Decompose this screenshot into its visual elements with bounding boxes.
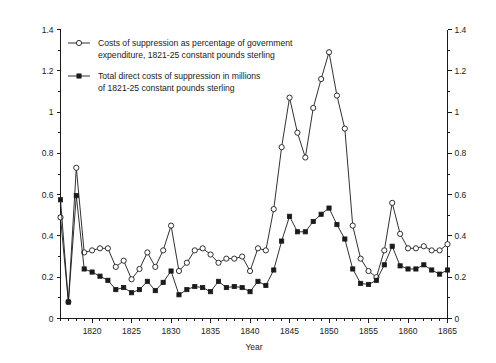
- data-point-open-circle: [247, 268, 252, 273]
- data-point-filled-square: [122, 285, 126, 289]
- legend-marker-filled-square: [77, 74, 81, 78]
- data-point-open-circle: [366, 268, 371, 273]
- data-point-filled-square: [351, 267, 355, 271]
- data-point-filled-square: [438, 272, 442, 276]
- data-point-open-circle: [390, 200, 395, 205]
- y-axis-left-tick-label: 1.2: [42, 66, 54, 76]
- data-point-open-circle: [398, 231, 403, 236]
- data-point-open-circle: [176, 268, 181, 273]
- data-point-filled-square: [153, 289, 157, 293]
- y-axis-right-tick-label: 1: [455, 107, 460, 117]
- data-point-open-circle: [200, 246, 205, 251]
- chart-figure: 000.20.20.40.40.60.60.80.8111.21.21.41.4…: [0, 0, 496, 363]
- data-point-filled-square: [90, 270, 94, 274]
- chart-canvas: 000.20.20.40.40.60.60.80.8111.21.21.41.4…: [0, 0, 496, 363]
- data-point-filled-square: [248, 290, 252, 294]
- data-point-filled-square: [74, 194, 78, 198]
- data-point-filled-square: [327, 206, 331, 210]
- data-point-filled-square: [430, 268, 434, 272]
- legend-label-line2-0: expenditure, 1821-25 constant pounds ste…: [98, 50, 275, 60]
- data-point-filled-square: [287, 214, 291, 218]
- y-axis-left-tick-label: 0.6: [42, 190, 54, 200]
- data-point-open-circle: [240, 254, 245, 259]
- data-point-filled-square: [137, 288, 141, 292]
- data-point-open-circle: [184, 260, 189, 265]
- data-point-filled-square: [208, 290, 212, 294]
- data-point-open-circle: [161, 248, 166, 253]
- data-point-open-circle: [326, 50, 331, 55]
- data-point-open-circle: [145, 250, 150, 255]
- data-point-filled-square: [343, 237, 347, 241]
- data-point-filled-square: [303, 230, 307, 234]
- data-point-filled-square: [280, 239, 284, 243]
- data-point-filled-square: [201, 285, 205, 289]
- data-point-open-circle: [192, 248, 197, 253]
- data-point-open-circle: [334, 93, 339, 98]
- data-point-open-circle: [287, 95, 292, 100]
- data-point-filled-square: [185, 288, 189, 292]
- data-point-open-circle: [342, 126, 347, 131]
- series-line-1: [61, 196, 448, 302]
- x-axis-tick-label: 1855: [359, 326, 378, 336]
- y-axis-right-tick-label: 0.2: [455, 272, 467, 282]
- x-axis-tick-label: 1845: [280, 326, 299, 336]
- y-axis-right-tick-label: 0.8: [455, 148, 467, 158]
- data-point-open-circle: [113, 264, 118, 269]
- x-axis-tick-label: 1850: [320, 326, 339, 336]
- data-point-filled-square: [414, 267, 418, 271]
- x-axis-tick-label: 1860: [399, 326, 418, 336]
- data-point-filled-square: [445, 268, 449, 272]
- data-point-open-circle: [105, 246, 110, 251]
- data-point-open-circle: [263, 248, 268, 253]
- data-point-open-circle: [216, 260, 221, 265]
- data-point-filled-square: [193, 284, 197, 288]
- data-point-filled-square: [177, 293, 181, 297]
- data-point-open-circle: [74, 165, 79, 170]
- data-point-filled-square: [82, 267, 86, 271]
- data-point-filled-square: [264, 283, 268, 287]
- y-axis-left-tick-label: 0: [49, 314, 54, 324]
- data-point-open-circle: [121, 258, 126, 263]
- y-axis-left-tick-label: 1.4: [42, 25, 54, 35]
- y-axis-right-tick-label: 0: [455, 314, 460, 324]
- y-axis-right-tick-label: 1.2: [455, 66, 467, 76]
- data-point-filled-square: [145, 279, 149, 283]
- y-axis-left-tick-label: 0.4: [42, 231, 54, 241]
- data-point-filled-square: [129, 291, 133, 295]
- data-point-filled-square: [224, 285, 228, 289]
- legend-entry-0: Costs of suppression as percentage of go…: [68, 38, 293, 60]
- legend-label-line2-1: of 1821-25 constant pounds sterling: [98, 83, 235, 93]
- data-point-open-circle: [89, 248, 94, 253]
- data-point-open-circle: [421, 244, 426, 249]
- data-point-filled-square: [295, 230, 299, 234]
- data-point-filled-square: [240, 285, 244, 289]
- data-point-open-circle: [445, 242, 450, 247]
- data-point-filled-square: [66, 300, 70, 304]
- data-point-filled-square: [406, 267, 410, 271]
- data-point-open-circle: [129, 277, 134, 282]
- x-axis-tick-label: 1865: [438, 326, 457, 336]
- data-point-open-circle: [97, 246, 102, 251]
- data-point-filled-square: [232, 284, 236, 288]
- data-point-filled-square: [374, 278, 378, 282]
- x-axis-tick-label: 1820: [83, 326, 102, 336]
- data-point-open-circle: [295, 130, 300, 135]
- y-axis-left-tick-label: 0.2: [42, 272, 54, 282]
- data-point-open-circle: [168, 223, 173, 228]
- y-axis-left-tick-label: 0.8: [42, 148, 54, 158]
- data-point-open-circle: [303, 155, 308, 160]
- data-point-filled-square: [366, 282, 370, 286]
- data-point-filled-square: [359, 281, 363, 285]
- data-point-filled-square: [422, 263, 426, 267]
- data-point-open-circle: [137, 266, 142, 271]
- y-axis-right-tick-label: 0.6: [455, 190, 467, 200]
- data-point-open-circle: [350, 223, 355, 228]
- data-point-open-circle: [311, 105, 316, 110]
- data-point-open-circle: [405, 246, 410, 251]
- data-point-open-circle: [429, 248, 434, 253]
- data-point-open-circle: [255, 246, 260, 251]
- x-axis-title: Year: [245, 342, 262, 352]
- data-point-filled-square: [114, 288, 118, 292]
- data-point-filled-square: [272, 268, 276, 272]
- y-axis-left-tick-label: 1: [49, 107, 54, 117]
